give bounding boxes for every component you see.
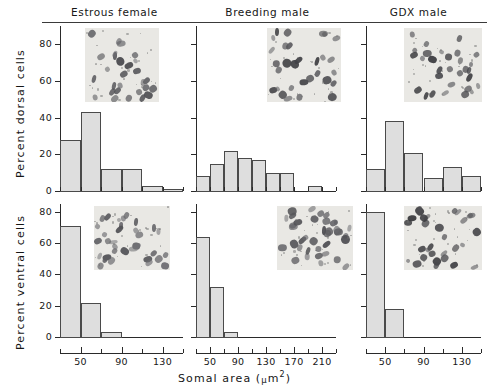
micrograph-cell [326,55,336,64]
bar-estrous-female-dorsal-30[interactable] [60,140,81,192]
micrograph-speck [317,224,318,225]
bar-gdx-male-ventral-50[interactable] [385,309,404,338]
x-tick-estrous-female-ventral-30 [60,349,61,353]
micrograph-cell [446,81,456,89]
micrograph-speck [423,260,425,262]
micrograph-speck [418,86,419,87]
micrograph-cell [408,215,418,222]
micrograph-speck [456,244,457,245]
y-tick-estrous-female-ventral-80 [55,212,60,213]
bar-gdx-male-dorsal-110[interactable] [443,167,462,192]
x-tick-breeding-male-ventral-150 [280,349,281,353]
x-tick-gdx-male-dorsal-50 [385,187,386,191]
micrograph-cell [94,223,101,230]
bar-breeding-male-dorsal-90[interactable] [238,158,252,192]
micrograph-speck [433,238,435,240]
micrograph-speck [121,67,123,69]
micrograph-cell [86,29,97,40]
figure-root: Estrous female Breeding male GDX male Pe… [0,0,487,390]
bar-estrous-female-dorsal-110[interactable] [142,186,163,193]
x-tick-gdx-male-dorsal-110 [443,187,444,191]
inset-breeding-male-ventral [277,206,353,270]
bar-estrous-female-dorsal-50[interactable] [81,112,102,192]
micrograph-cell [412,86,422,95]
micrograph-speck [100,64,101,65]
micrograph-speck [141,86,143,88]
micrograph-speck [415,89,416,90]
y-tick-gdx-male-dorsal-60 [361,81,366,82]
micrograph-speck [435,222,436,223]
bar-gdx-male-dorsal-70[interactable] [404,153,423,193]
x-tick-label-gdx-male-ventral-130: 130 [448,356,476,367]
bar-gdx-male-dorsal-30[interactable] [366,169,385,192]
x-tick-gdx-male-ventral-110 [443,349,444,353]
micrograph-cell [92,94,98,101]
bar-estrous-female-dorsal-130[interactable] [163,189,184,192]
micrograph-speck [147,52,149,54]
bar-breeding-male-dorsal-110[interactable] [252,160,266,192]
x-axis-label-close: ) [286,372,291,385]
x-tick-estrous-female-dorsal-50 [81,187,82,191]
x-tick-gdx-male-dorsal-150 [481,187,482,191]
micrograph-speck [429,207,431,209]
micrograph-speck [425,65,426,66]
micrograph-cell [412,259,422,269]
micrograph-cell [132,67,142,75]
micrograph-speck [275,41,277,43]
bar-breeding-male-ventral-70[interactable] [224,332,238,338]
micrograph-speck [159,228,161,230]
micrograph-speck [130,215,131,216]
bar-breeding-male-ventral-30[interactable] [196,237,210,338]
x-tick-estrous-female-dorsal-130 [163,187,164,191]
micrograph-speck [298,236,300,238]
bar-gdx-male-dorsal-50[interactable] [385,121,404,192]
bar-breeding-male-dorsal-150[interactable] [280,173,294,192]
micrograph-speck [155,82,156,83]
micrograph-cell [444,53,452,61]
micrograph-speck [458,66,459,67]
bar-breeding-male-dorsal-30[interactable] [196,176,210,192]
x-tick-estrous-female-dorsal-110 [142,187,143,191]
micrograph-cell [473,51,481,59]
y-tick-label-estrous-female-ventral-80: 80 [26,206,52,217]
micrograph-speck [95,63,97,65]
inset-estrous-female-ventral [94,206,170,270]
x-tick-label-breeding-male-ventral-130: 130 [252,356,280,367]
bar-estrous-female-ventral-50[interactable] [81,303,102,338]
micrograph-speck [141,266,142,267]
bar-gdx-male-ventral-30[interactable] [366,212,385,338]
micrograph-speck [318,67,320,69]
micrograph-speck [283,57,285,59]
x-tick-breeding-male-ventral-30 [196,349,197,353]
bar-gdx-male-dorsal-130[interactable] [462,176,481,192]
bar-estrous-female-dorsal-70[interactable] [101,169,122,192]
x-axis-rule-breeding-male-ventral [196,353,336,354]
bar-breeding-male-dorsal-50[interactable] [210,164,224,193]
micrograph-cell [405,259,411,265]
bar-gdx-male-dorsal-90[interactable] [424,178,443,192]
x-tick-breeding-male-ventral-110 [252,349,253,353]
micrograph-speck [322,249,323,250]
micrograph-speck [327,236,329,238]
micrograph-cell [456,35,462,43]
bar-breeding-male-dorsal-70[interactable] [224,151,238,192]
micrograph-speck [268,94,269,95]
bar-estrous-female-ventral-30[interactable] [60,226,81,338]
x-tick-gdx-male-ventral-130 [462,347,463,353]
micrograph-speck [306,216,307,217]
x-tick-gdx-male-ventral-50 [385,347,386,353]
micrograph-cell [278,244,287,252]
bar-breeding-male-dorsal-190[interactable] [308,186,322,193]
micrograph-speck [447,243,449,245]
bar-breeding-male-ventral-50[interactable] [210,287,224,338]
micrograph-speck [350,235,351,236]
micrograph-speck [316,232,318,234]
x-tick-label-estrous-female-ventral-90: 90 [108,356,136,367]
micrograph-cell [334,256,341,263]
micrograph-speck [117,256,118,257]
bar-estrous-female-dorsal-90[interactable] [122,169,143,192]
bar-estrous-female-ventral-70[interactable] [101,332,122,338]
bar-breeding-male-dorsal-130[interactable] [266,173,280,192]
micrograph-speck [136,84,137,85]
micrograph-cell [96,52,106,61]
